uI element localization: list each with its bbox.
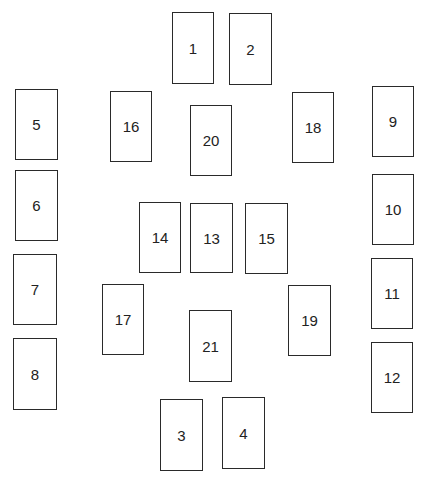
fuse-slot-17: 17: [102, 284, 144, 355]
fuse-label: 7: [31, 282, 39, 297]
fuse-label: 19: [301, 313, 318, 328]
fuse-slot-7: 7: [13, 254, 57, 325]
fuse-label: 21: [202, 339, 219, 354]
fuse-slot-1: 1: [172, 12, 214, 84]
fuse-slot-15: 15: [245, 203, 288, 274]
fuse-slot-10: 10: [372, 174, 414, 245]
fuse-slot-21: 21: [189, 310, 232, 382]
fuse-slot-13: 13: [190, 203, 233, 273]
fuse-label: 3: [177, 428, 185, 443]
fuse-slot-18: 18: [292, 92, 334, 163]
fuse-label: 5: [32, 117, 40, 132]
fuse-label: 4: [239, 426, 247, 441]
fuse-slot-9: 9: [372, 86, 414, 157]
fuse-slot-6: 6: [15, 170, 58, 241]
fuse-label: 1: [189, 41, 197, 56]
fuse-slot-8: 8: [13, 338, 57, 410]
fuse-label: 20: [203, 133, 220, 148]
fuse-slot-3: 3: [160, 399, 203, 471]
fuse-slot-16: 16: [110, 91, 152, 162]
fuse-label: 6: [32, 198, 40, 213]
fuse-slot-20: 20: [190, 105, 232, 176]
fuse-label: 17: [115, 312, 132, 327]
fuse-box-diagram: 1 2 5 16 20 18 9 6 10 14 13 15 7 11 17 1…: [0, 0, 429, 486]
fuse-slot-11: 11: [371, 258, 413, 329]
fuse-label: 11: [384, 286, 400, 301]
fuse-slot-19: 19: [288, 285, 331, 356]
fuse-label: 15: [258, 231, 275, 246]
fuse-label: 2: [246, 42, 254, 57]
fuse-slot-5: 5: [15, 89, 58, 160]
fuse-label: 9: [389, 114, 397, 129]
fuse-label: 14: [152, 230, 169, 245]
fuse-label: 8: [31, 367, 39, 382]
fuse-slot-4: 4: [222, 397, 265, 469]
fuse-label: 13: [203, 231, 220, 246]
fuse-slot-12: 12: [371, 342, 413, 413]
fuse-label: 16: [123, 119, 140, 134]
fuse-slot-2: 2: [229, 13, 272, 85]
fuse-label: 10: [385, 202, 402, 217]
fuse-label: 12: [384, 370, 401, 385]
fuse-slot-14: 14: [139, 202, 181, 273]
fuse-label: 18: [305, 120, 322, 135]
